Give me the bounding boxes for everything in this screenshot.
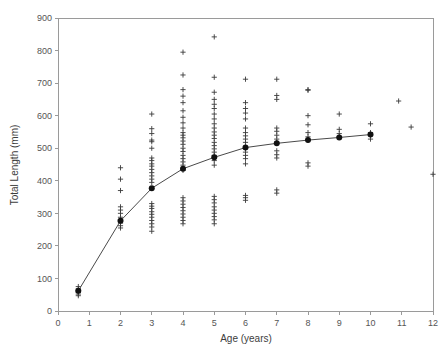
- scatter-point: [243, 140, 248, 145]
- scatter-point: [409, 124, 414, 129]
- scatter-point: [212, 34, 217, 39]
- scatter-point: [243, 116, 248, 121]
- x-tick-label: 4: [180, 318, 185, 328]
- x-tick-label: 9: [337, 318, 342, 328]
- scatter-point: [396, 98, 401, 103]
- scatter-point: [149, 146, 154, 151]
- scatter-point: [243, 125, 248, 130]
- scatter-point: [274, 191, 279, 196]
- scatter-point: [180, 50, 185, 55]
- x-tick-label: 10: [365, 318, 375, 328]
- mean-trend-layer: [78, 135, 370, 291]
- y-tick-label: 700: [37, 78, 52, 88]
- mean-point: [75, 288, 81, 294]
- scatter-point: [274, 97, 279, 102]
- scatter-point: [118, 225, 123, 230]
- scatter-point: [243, 100, 248, 105]
- scatter-point: [180, 72, 185, 77]
- y-tick-label: 600: [37, 111, 52, 121]
- scatter-point: [212, 75, 217, 80]
- scatter-point: [149, 229, 154, 234]
- scatter-point: [180, 100, 185, 105]
- y-tick-label: 400: [37, 176, 52, 186]
- scatter-point: [243, 198, 248, 203]
- y-tick-label: 300: [37, 209, 52, 219]
- scatter-point: [149, 180, 154, 185]
- scatter-point: [180, 108, 185, 113]
- scatter-point: [180, 87, 185, 92]
- x-tick-label: 6: [243, 318, 248, 328]
- scatter-point: [368, 121, 373, 126]
- scatter-point: [180, 115, 185, 120]
- mean-point: [211, 154, 217, 160]
- y-tick-label: 0: [47, 306, 52, 316]
- x-tick-label: 7: [274, 318, 279, 328]
- y-tick-label: 500: [37, 143, 52, 153]
- scatter-point: [118, 165, 123, 170]
- scatter-point: [274, 77, 279, 82]
- y-tick-label: 100: [37, 274, 52, 284]
- mean-point: [274, 140, 280, 146]
- scatter-point: [243, 110, 248, 115]
- scatter-point: [180, 221, 185, 226]
- mean-points-layer: [75, 132, 373, 294]
- scatter-points-layer: [76, 34, 436, 298]
- scatter-point: [118, 177, 123, 182]
- mean-point: [243, 145, 249, 151]
- x-tick-label: 0: [55, 318, 60, 328]
- scatter-point: [212, 221, 217, 226]
- mean-point: [368, 132, 374, 138]
- x-tick-label: 12: [428, 318, 438, 328]
- x-axis-title: Age (years): [220, 333, 272, 344]
- x-tick-label: 8: [305, 318, 310, 328]
- scatter-point: [243, 161, 248, 166]
- scatter-point: [305, 113, 310, 118]
- scatter-point: [149, 126, 154, 131]
- scatter-point: [212, 111, 217, 116]
- scatter-point: [243, 156, 248, 161]
- scatter-point: [180, 120, 185, 125]
- x-tick-label: 3: [149, 318, 154, 328]
- x-tick-label: 2: [118, 318, 123, 328]
- x-tick-label: 5: [212, 318, 217, 328]
- y-tick-label: 900: [37, 13, 52, 23]
- scatter-point: [212, 116, 217, 121]
- y-tick-label: 800: [37, 46, 52, 56]
- mean-point: [118, 218, 124, 224]
- y-axis: 0100200300400500600700800900: [37, 13, 58, 316]
- scatter-point: [305, 122, 310, 127]
- scatter-point: [212, 90, 217, 95]
- scatter-plot: 0100200300400500600700800900 01234567891…: [0, 0, 448, 352]
- x-tick-label: 11: [397, 318, 406, 328]
- scatter-point: [243, 77, 248, 82]
- scatter-point: [305, 88, 310, 93]
- mean-point: [180, 166, 186, 172]
- scatter-point: [149, 131, 154, 136]
- scatter-point: [337, 111, 342, 116]
- scatter-point: [212, 163, 217, 168]
- scatter-point: [243, 106, 248, 111]
- y-tick-label: 200: [37, 241, 52, 251]
- x-axis: 0123456789101112: [55, 311, 438, 328]
- scatter-point: [212, 97, 217, 102]
- scatter-point: [274, 155, 279, 160]
- scatter-point: [180, 125, 185, 130]
- mean-point: [336, 134, 342, 140]
- scatter-point: [212, 106, 217, 111]
- scatter-point: [305, 164, 310, 169]
- scatter-point: [180, 94, 185, 99]
- scatter-point: [430, 172, 435, 177]
- scatter-point: [118, 188, 123, 193]
- scatter-point: [149, 111, 154, 116]
- y-axis-title: Total Length (mm): [9, 125, 20, 206]
- mean-point: [305, 137, 311, 143]
- chart-figure: 0100200300400500600700800900 01234567891…: [0, 0, 448, 352]
- x-tick-label: 1: [87, 318, 92, 328]
- mean-point: [149, 185, 155, 191]
